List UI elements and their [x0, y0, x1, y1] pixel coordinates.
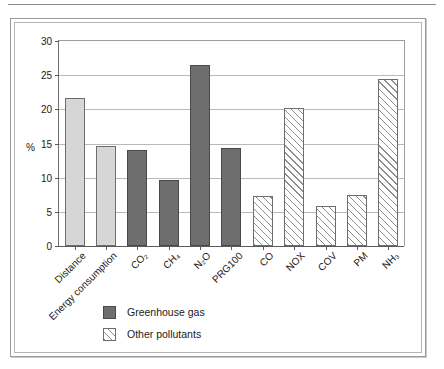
y-axis-tick-label: 25: [41, 70, 52, 81]
bar-slot: [216, 41, 247, 246]
bar-slot: [341, 41, 372, 246]
x-axis-label-nh3: NH₃: [380, 250, 401, 271]
plot-area: 051015202530: [58, 40, 405, 246]
bar-slot: [279, 41, 310, 246]
bar-energy-consumption[interactable]: [96, 146, 116, 246]
y-axis-tick-label: 0: [46, 241, 52, 252]
chart-page: % 051015202530 DistanceEnergy consumptio…: [0, 0, 444, 369]
bar-slot: [310, 41, 341, 246]
y-axis-tick-label: 20: [41, 104, 52, 115]
bar-slot: [247, 41, 278, 246]
x-axis-label-cov: COV: [315, 250, 338, 273]
bar-co2[interactable]: [127, 150, 147, 246]
x-axis-label-n2o: N₂O: [192, 250, 213, 271]
bar-pm[interactable]: [347, 195, 367, 246]
bar-slot: [122, 41, 153, 246]
x-axis-label-pm: PM: [351, 250, 369, 268]
bar-n2o[interactable]: [190, 65, 210, 246]
y-axis-tick-label: 30: [41, 36, 52, 47]
x-axis-label-nox: NOX: [284, 250, 307, 273]
legend-swatch-greenhouse-gas-icon: [103, 306, 116, 319]
legend-item-greenhouse-gas: Greenhouse gas: [103, 301, 293, 323]
legend-label-greenhouse-gas: Greenhouse gas: [127, 306, 205, 318]
y-axis-tick-label: 5: [46, 206, 52, 217]
y-axis-tick-label: 15: [41, 138, 52, 149]
bar-slot: [373, 41, 404, 246]
legend-item-other-pollutants: Other pollutants: [103, 323, 293, 345]
bar-slot: [90, 41, 121, 246]
bar-ch4[interactable]: [159, 180, 179, 246]
bar-slot: [59, 41, 90, 246]
x-axis-label-prg100: PRG100: [209, 250, 244, 285]
y-axis-title: %: [26, 142, 35, 153]
legend-label-other-pollutants: Other pollutants: [127, 328, 201, 340]
chart-legend: Greenhouse gas Other pollutants: [103, 301, 293, 345]
bar-prg100[interactable]: [221, 148, 241, 246]
bar-slot: [184, 41, 215, 246]
bar-cov[interactable]: [316, 206, 336, 246]
x-axis-label-ch4: CH₄: [161, 250, 182, 271]
y-axis-tick-label: 10: [41, 172, 52, 183]
bar-slot: [153, 41, 184, 246]
top-divider-rule: [8, 4, 436, 5]
bar-distance[interactable]: [65, 98, 85, 246]
bar-co[interactable]: [253, 196, 273, 246]
legend-swatch-other-pollutants-icon: [103, 328, 116, 341]
x-axis-label-co2: CO₂: [129, 250, 150, 271]
bar-nox[interactable]: [284, 108, 304, 246]
bar-nh3[interactable]: [378, 79, 398, 246]
bars-group: [59, 41, 404, 246]
x-axis-label-co: CO: [257, 250, 275, 268]
